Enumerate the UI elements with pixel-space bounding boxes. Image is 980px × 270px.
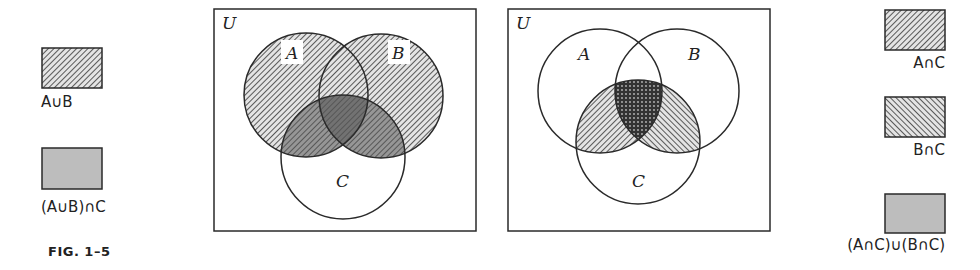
right-legend [885, 10, 945, 233]
legend-swatch-a-union-b-intersect-c [42, 148, 102, 189]
legend-label-a-union-b-intersect-c: (A∪B)∩C [41, 198, 106, 216]
legend-label-b-intersect-c: B∩C [913, 141, 945, 159]
legend-swatch-a-intersect-c [885, 10, 945, 50]
universe-label: U [516, 13, 531, 33]
left-legend [42, 48, 102, 189]
venn-diagram-left [214, 9, 476, 231]
legend-swatch-b-intersect-c [885, 97, 945, 137]
set-label-a: A [284, 43, 298, 63]
legend-swatch-union-of-intersections [885, 194, 945, 233]
venn-figure: U A B C U A B C [0, 0, 980, 270]
legend-label-a-union-b: A∪B [41, 93, 73, 111]
set-label-c: C [336, 171, 349, 191]
figure-caption: FIG. 1–5 [48, 244, 110, 259]
legend-swatch-a-union-b [42, 48, 102, 88]
set-label-b: B [687, 44, 701, 64]
set-label-b: B [391, 43, 405, 63]
legend-label-union-of-intersections: (A∩C)∪(B∩C) [847, 236, 945, 254]
venn-diagram-right [508, 9, 770, 231]
universe-label: U [222, 13, 237, 33]
set-label-a: A [576, 44, 590, 64]
set-label-c: C [632, 171, 645, 191]
legend-label-a-intersect-c: A∩C [913, 54, 945, 72]
